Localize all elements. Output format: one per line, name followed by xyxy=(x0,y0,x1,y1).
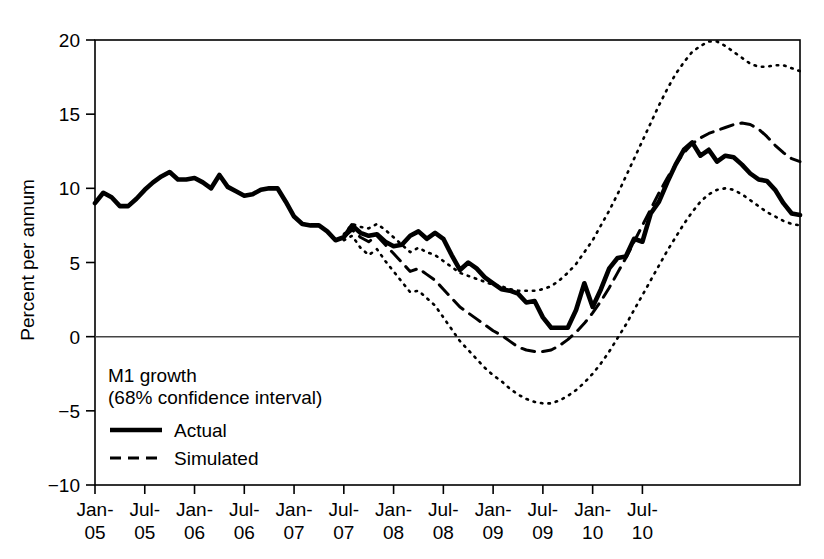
x-tick-label-month: Jan- xyxy=(475,499,512,520)
x-tick-label-month: Jul- xyxy=(129,499,160,520)
x-axis-ticks xyxy=(95,485,642,494)
chart-legend: M1 growth (68% confidence interval) Actu… xyxy=(108,365,322,469)
x-tick-label-year: 07 xyxy=(333,522,354,543)
y-tick-label: 10 xyxy=(59,178,80,199)
legend-label-actual: Actual xyxy=(174,420,227,441)
y-axis-tick-labels: −10−505101520 xyxy=(48,30,80,496)
series-line-upper-68-confidence-bound xyxy=(344,41,800,290)
y-tick-label: 0 xyxy=(69,327,80,348)
x-tick-label-year: 10 xyxy=(632,522,653,543)
legend-entry-simulated: Simulated xyxy=(110,448,259,469)
y-tick-label: −10 xyxy=(48,475,80,496)
x-tick-label-month: Jul- xyxy=(229,499,260,520)
series-line-actual xyxy=(95,142,800,327)
x-tick-label-year: 09 xyxy=(532,522,553,543)
x-tick-label-month: Jul- xyxy=(627,499,658,520)
x-tick-label-month: Jul- xyxy=(428,499,459,520)
x-tick-label-year: 05 xyxy=(134,522,155,543)
y-tick-label: 15 xyxy=(59,104,80,125)
x-tick-label-year: 08 xyxy=(383,522,404,543)
legend-label-simulated: Simulated xyxy=(174,448,259,469)
x-tick-label-year: 06 xyxy=(234,522,255,543)
x-tick-label-month: Jan- xyxy=(574,499,611,520)
legend-annotation-title: M1 growth xyxy=(108,365,197,386)
x-tick-label-year: 10 xyxy=(582,522,603,543)
y-tick-label: −5 xyxy=(58,401,80,422)
x-tick-label-month: Jan- xyxy=(176,499,213,520)
y-axis-title-text: Percent per annum xyxy=(17,179,38,341)
chart-figure: −10−505101520 Jan-05Jul-05Jan-06Jul-06Ja… xyxy=(0,0,824,559)
x-tick-label-month: Jan- xyxy=(276,499,313,520)
legend-annotation-ci: (68% confidence interval) xyxy=(108,387,322,408)
y-tick-label: 5 xyxy=(69,253,80,274)
data-series-group xyxy=(95,41,800,403)
x-tick-label-month: Jul- xyxy=(329,499,360,520)
y-axis-ticks xyxy=(86,40,95,485)
x-tick-label-year: 07 xyxy=(283,522,304,543)
x-tick-label-month: Jul- xyxy=(528,499,559,520)
y-axis-title: Percent per annum xyxy=(17,179,38,341)
x-tick-label-month: Jan- xyxy=(77,499,114,520)
series-line-lower-68-confidence-bound xyxy=(344,188,800,403)
x-axis-tick-labels: Jan-05Jul-05Jan-06Jul-06Jan-07Jul-07Jan-… xyxy=(77,499,658,543)
x-tick-label-year: 09 xyxy=(483,522,504,543)
m1-growth-chart: −10−505101520 Jan-05Jul-05Jan-06Jul-06Ja… xyxy=(0,0,824,559)
plot-frame xyxy=(95,40,800,485)
legend-entry-actual: Actual xyxy=(110,420,227,441)
y-tick-label: 20 xyxy=(59,30,80,51)
x-tick-label-year: 08 xyxy=(433,522,454,543)
x-tick-label-year: 05 xyxy=(84,522,105,543)
x-tick-label-month: Jan- xyxy=(375,499,412,520)
x-tick-label-year: 06 xyxy=(184,522,205,543)
